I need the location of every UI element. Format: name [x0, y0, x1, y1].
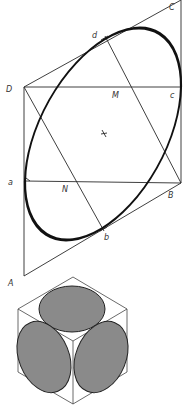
label-b: b — [104, 233, 109, 242]
label-d: d — [92, 31, 98, 40]
ellipse-group — [23, 0, 183, 276]
line-D-C — [24, 0, 181, 87]
center-mark — [101, 130, 107, 137]
label-B: B — [168, 191, 174, 200]
line-D-b — [24, 87, 104, 231]
label-A: A — [7, 279, 13, 288]
line-d-B — [105, 36, 181, 183]
isometric-cube — [7, 277, 138, 404]
label-D: D — [6, 85, 12, 94]
label-c: c — [170, 91, 175, 100]
diagram-canvas: C d D M c a N B b A — [0, 0, 191, 405]
line-a-B — [24, 181, 181, 183]
tick-a — [26, 178, 30, 181]
inscribed-ellipse — [23, 0, 183, 276]
label-M: M — [112, 91, 119, 100]
label-C: C — [169, 3, 175, 12]
label-a: a — [8, 178, 13, 187]
label-N: N — [62, 185, 68, 194]
